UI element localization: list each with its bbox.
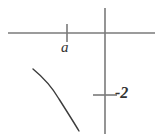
x-axis-tick-label: a	[61, 40, 69, 55]
function-curve	[33, 69, 79, 131]
y-axis-tick-label: -2	[115, 85, 128, 101]
graph-figure: a -2	[0, 0, 163, 137]
coordinate-plane-svg	[0, 0, 163, 137]
